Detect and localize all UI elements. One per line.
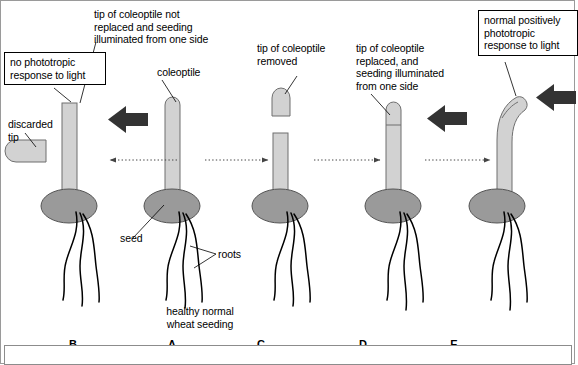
coleoptile-stem-D <box>386 102 401 198</box>
annotation-no-phototropic-response: no phototropic response to light <box>4 52 106 85</box>
severed-tip-C <box>272 88 290 116</box>
annotation-tip-removed: tip of coleoptile removed <box>257 42 357 67</box>
panel-E-seedling <box>469 62 576 310</box>
light-arrow-E <box>536 84 576 111</box>
light-arrow-B <box>108 106 148 133</box>
panel-D-seedling <box>365 94 467 310</box>
annotation-seed: seed <box>120 232 160 245</box>
roots-A <box>166 212 202 308</box>
coleoptile-stem-C <box>273 133 288 198</box>
annotation-tip-replaced: tip of coleoptile replaced, and seeding … <box>356 42 461 92</box>
roots-B <box>63 212 99 306</box>
roots-C <box>274 212 310 306</box>
roots-D <box>387 212 423 310</box>
seed-C <box>252 189 308 223</box>
seed-D <box>365 189 421 223</box>
panel-C-seedling <box>252 76 310 306</box>
seed-B <box>41 189 97 223</box>
leader-no-phototropic <box>54 88 71 102</box>
annotation-roots: roots <box>218 248 262 261</box>
annotation-coleoptile: coleoptile <box>157 66 237 79</box>
annotation-healthy-normal-wheat-seeding: healthy normal wheat seeding <box>145 305 255 330</box>
annotation-normal-positive-response: normal positively phototropic response t… <box>478 10 578 56</box>
coleoptile-stem-E <box>497 97 527 198</box>
light-arrow-D <box>427 105 467 132</box>
seed-E <box>469 189 525 223</box>
leader-tip-removed <box>285 76 297 94</box>
leader-roots-1 <box>190 246 216 254</box>
bottom-caption-frame <box>4 345 572 365</box>
discarded-tip-shape <box>5 140 46 162</box>
leader-tip-replaced <box>371 94 390 115</box>
roots-E <box>491 212 527 310</box>
coleoptile-stem-A <box>165 97 180 198</box>
annotation-discarded-tip: discarded tip <box>8 118 78 143</box>
leader-normal-positive <box>505 62 516 96</box>
annotation-tip-not-replaced: tip of coleoptile not replaced and seedi… <box>94 8 229 46</box>
